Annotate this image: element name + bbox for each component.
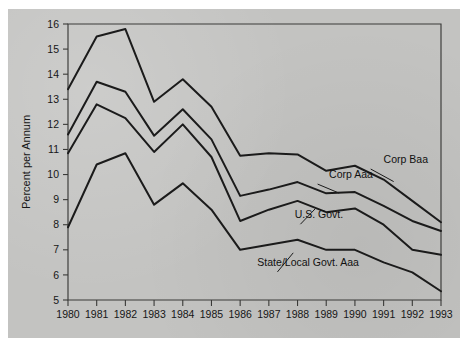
y-axis-tick-label: 15 (47, 43, 59, 55)
y-axis-tick-label: 13 (47, 93, 59, 105)
x-axis-tick-label: 1993 (429, 308, 453, 320)
x-axis-tick-label: 1990 (343, 308, 367, 320)
y-axis-tick-label: 9 (53, 193, 59, 205)
y-axis-tick-label: 10 (47, 168, 59, 180)
series-annotation-corp-baa: Corp Baa (384, 153, 429, 165)
chart-figure: 5678910111213141516Percent per Annum1980… (0, 0, 472, 348)
series-annotation-state-local-govt-aaa: State/Local Govt. Aaa (257, 256, 359, 268)
x-axis-tick-label: 1991 (372, 308, 396, 320)
x-axis-tick-label: 1983 (142, 308, 166, 320)
y-axis-tick-label: 8 (53, 218, 59, 230)
y-axis-title: Percent per Annum (20, 115, 32, 209)
x-axis-tick-label: 1992 (401, 308, 425, 320)
series-line-state-local-govt-aaa (68, 153, 441, 291)
line-chart: 5678910111213141516Percent per Annum1980… (0, 0, 472, 348)
x-axis-tick-label: 1987 (257, 308, 281, 320)
x-axis-tick-label: 1988 (286, 308, 310, 320)
y-axis-tick-label: 12 (47, 118, 59, 130)
series-annotation-corp-aaa: Corp Aaa (329, 168, 373, 180)
x-axis-tick-label: 1982 (114, 308, 138, 320)
y-axis-tick-label: 7 (53, 243, 59, 255)
y-axis-tick-label: 11 (48, 143, 59, 155)
x-axis-tick-label: 1986 (228, 308, 252, 320)
series-annotation-u-s-govt: U.S. Govt. (295, 208, 343, 220)
x-axis-tick-label: 1989 (315, 308, 339, 320)
y-axis-tick-label: 5 (53, 294, 59, 306)
y-axis-tick-label: 16 (47, 18, 59, 30)
y-axis-tick-label: 14 (47, 68, 59, 80)
x-axis-tick-label: 1985 (200, 308, 224, 320)
x-axis-tick-label: 1981 (85, 308, 109, 320)
x-axis-tick-label: 1984 (171, 308, 195, 320)
y-axis-tick-label: 6 (53, 269, 59, 281)
x-axis-tick-label: 1980 (56, 308, 80, 320)
